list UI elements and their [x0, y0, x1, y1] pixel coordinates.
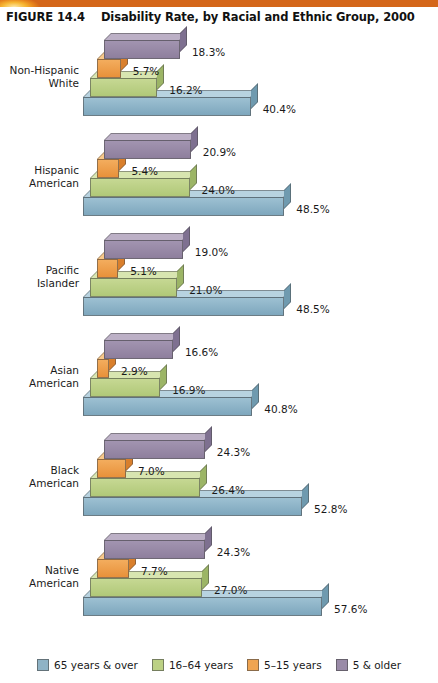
legend-item: 65 years & over [37, 659, 138, 671]
bar [104, 240, 183, 259]
bar-side-face [205, 426, 212, 452]
bar-value-label: 24.3% [217, 446, 250, 458]
bar-value-label: 7.0% [138, 465, 165, 477]
bar [83, 97, 251, 116]
bar [104, 40, 180, 59]
bar [97, 59, 121, 78]
bar-value-label: 16.2% [169, 84, 202, 96]
bar-front-face [104, 440, 205, 459]
bar-side-face [284, 283, 291, 309]
bar-front-face [97, 259, 118, 278]
bar-value-label: 7.7% [141, 565, 168, 577]
bar [83, 397, 252, 416]
bar-top-face [104, 333, 180, 340]
decorative-top-band [0, 0, 438, 7]
bar-value-label: 52.8% [314, 503, 347, 515]
bar-value-label: 16.6% [185, 346, 218, 358]
category-label: PacificIslander [0, 264, 79, 289]
bar-stack: 18.3%5.7%16.2%40.4% [83, 30, 433, 130]
bar-front-face [83, 397, 252, 416]
bar [90, 78, 157, 97]
bar [90, 178, 190, 197]
bar-side-face [180, 26, 187, 52]
bar-value-label: 40.8% [264, 403, 297, 415]
bar-value-label: 24.0% [202, 184, 235, 196]
bar-side-face [251, 83, 258, 109]
bar-top-face [104, 533, 212, 540]
bar-value-label: 27.0% [214, 584, 247, 596]
bar [97, 559, 129, 578]
bar [90, 578, 202, 597]
bar-side-face [284, 183, 291, 209]
bar-value-label: 5.7% [133, 65, 160, 77]
legend-swatch [247, 659, 259, 671]
figure-header: FIGURE 14.4 Disability Rate, by Racial a… [6, 10, 432, 28]
bar-stack: 20.9%5.4%24.0%48.5% [83, 130, 433, 230]
bar-value-label: 48.5% [296, 303, 329, 315]
bar-group: Non-HispanicWhite18.3%5.7%16.2%40.4% [0, 30, 438, 130]
legend-swatch [336, 659, 348, 671]
bar-value-label: 2.9% [121, 365, 148, 377]
bar [90, 278, 177, 297]
bar-top-face [104, 133, 198, 140]
bar-value-label: 5.4% [131, 165, 158, 177]
bar [97, 459, 126, 478]
legend-item: 5–15 years [247, 659, 322, 671]
bar-value-label: 48.5% [296, 203, 329, 215]
bar-group: PacificIslander19.0%5.1%21.0%48.5% [0, 230, 438, 330]
category-label: NativeAmerican [0, 564, 79, 589]
bar [104, 140, 191, 159]
bar-side-face [302, 483, 309, 509]
bar-value-label: 5.1% [130, 265, 157, 277]
bar [90, 378, 160, 397]
bar-front-face [97, 59, 121, 78]
bar-top-face [104, 233, 190, 240]
bar-front-face [104, 240, 183, 259]
legend-label: 5 & older [353, 659, 401, 671]
bar-top-face [104, 33, 187, 40]
bar-side-face [173, 326, 180, 352]
bar-side-face [202, 564, 209, 590]
bar-side-face [183, 226, 190, 252]
bar-stack: 19.0%5.1%21.0%48.5% [83, 230, 433, 330]
bar [83, 197, 284, 216]
category-label: HispanicAmerican [0, 164, 79, 189]
bar-side-face [200, 464, 207, 490]
bar-group: HispanicAmerican20.9%5.4%24.0%48.5% [0, 130, 438, 230]
bar-front-face [104, 140, 191, 159]
bar-front-face [104, 540, 205, 559]
category-label: AsianAmerican [0, 364, 79, 389]
bar-top-face [104, 433, 212, 440]
bar-front-face [83, 497, 302, 516]
bar-value-label: 57.6% [334, 603, 367, 615]
bar-value-label: 21.0% [189, 284, 222, 296]
page-title: Disability Rate, by Racial and Ethnic Gr… [101, 10, 415, 24]
bar-value-label: 19.0% [195, 246, 228, 258]
chart-plot-area: Non-HispanicWhite18.3%5.7%16.2%40.4%Hisp… [0, 30, 438, 642]
bar [83, 297, 284, 316]
bar-front-face [90, 178, 190, 197]
bar-group: AsianAmerican16.6%2.9%16.9%40.8% [0, 330, 438, 430]
bar-front-face [104, 40, 180, 59]
legend-swatch [152, 659, 164, 671]
bar [97, 159, 119, 178]
bar [104, 540, 205, 559]
bar-value-label: 20.9% [203, 146, 236, 158]
bar-front-face [90, 378, 160, 397]
bar-side-face [190, 164, 197, 190]
bar-front-face [90, 578, 202, 597]
bar-front-face [97, 359, 109, 378]
legend-swatch [37, 659, 49, 671]
bar-stack: 24.3%7.7%27.0%57.6% [83, 530, 433, 630]
legend-item: 5 & older [336, 659, 401, 671]
bar-value-label: 40.4% [263, 103, 296, 115]
bar-front-face [83, 197, 284, 216]
legend-label: 65 years & over [54, 659, 138, 671]
bar [97, 359, 109, 378]
bar-value-label: 26.4% [212, 484, 245, 496]
bar-value-label: 16.9% [172, 384, 205, 396]
bar-front-face [97, 459, 126, 478]
bar-group: NativeAmerican24.3%7.7%27.0%57.6% [0, 530, 438, 630]
bar-front-face [97, 159, 119, 178]
figure-number: FIGURE 14.4 [6, 10, 85, 24]
